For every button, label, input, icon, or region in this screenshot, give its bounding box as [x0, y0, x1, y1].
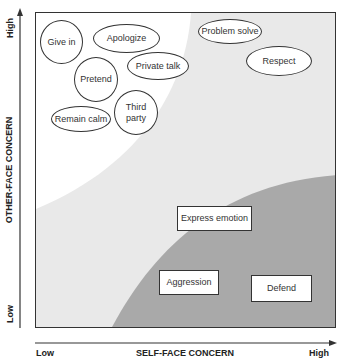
y-axis-low-label: Low — [5, 299, 17, 329]
node-label: Express emotion — [181, 213, 248, 224]
node-private-talk: Private talk — [127, 52, 189, 80]
node-label: Problem solve — [201, 26, 258, 37]
node-third-party: Third party — [114, 90, 158, 135]
x-axis-low-label: Low — [36, 348, 54, 358]
node-express-emotion: Express emotion — [177, 206, 252, 231]
node-label: Respect — [262, 56, 295, 67]
node-remain-calm: Remain calm — [51, 106, 111, 132]
plot-area: Give in Apologize Private talk Pretend T… — [35, 12, 336, 328]
x-axis-high-label: High — [309, 348, 329, 358]
node-label: Aggression — [166, 277, 211, 288]
node-label: Private talk — [136, 61, 181, 72]
node-give-in: Give in — [40, 20, 83, 64]
node-label-line2: party — [126, 113, 146, 124]
node-defend: Defend — [251, 275, 312, 302]
y-axis-high-label: High — [5, 13, 17, 43]
node-label-line1: Third — [126, 102, 147, 113]
node-apologize: Apologize — [93, 24, 160, 53]
node-label: Remain calm — [55, 114, 108, 125]
x-axis-title: SELF-FACE CONCERN — [136, 348, 234, 358]
node-label: Give in — [47, 37, 75, 48]
node-problem-solve: Problem solve — [198, 19, 262, 44]
node-label: Defend — [267, 283, 296, 294]
y-axis-title: OTHER-FACE CONCERN — [4, 105, 16, 235]
node-label: Pretend — [80, 74, 112, 85]
x-axis-arrow — [35, 338, 337, 348]
node-respect: Respect — [246, 46, 312, 76]
node-pretend: Pretend — [74, 57, 118, 102]
node-label: Apologize — [107, 33, 147, 44]
node-aggression: Aggression — [159, 270, 219, 295]
